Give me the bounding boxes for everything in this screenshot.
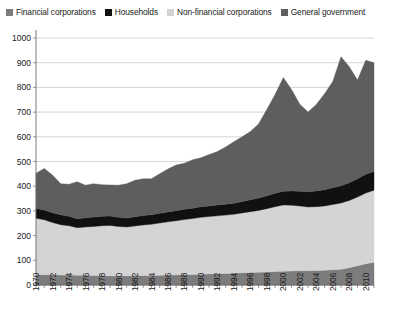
y-axis-tick-label: 1000 xyxy=(12,33,31,43)
y-axis-tick-label: 300 xyxy=(17,206,32,216)
y-axis-tick-label: 100 xyxy=(17,255,32,265)
y-axis-tick-label: 0 xyxy=(26,280,31,290)
legend-item-households[interactable]: Households xyxy=(105,8,158,17)
legend-label: Financial corporations xyxy=(16,8,96,17)
stacked-area-chart: Financial corporations Households Non-fi… xyxy=(0,0,400,331)
x-axis-tick-label: 1996 xyxy=(246,272,255,291)
y-axis-tick-label: 600 xyxy=(17,132,32,142)
x-axis-tick-label: 1974 xyxy=(65,272,74,291)
legend-item-non-financial-corporations[interactable]: Non-financial corporations xyxy=(167,8,272,17)
x-axis-tick-label: 2000 xyxy=(279,272,288,291)
y-axis-tick-label: 700 xyxy=(17,107,32,117)
square-swatch-icon xyxy=(6,9,13,16)
legend-item-financial-corporations[interactable]: Financial corporations xyxy=(6,8,96,17)
x-axis-tick-label: 1972 xyxy=(49,272,58,291)
x-axis-tick-label: 1992 xyxy=(213,272,222,291)
x-axis-tick-label: 1994 xyxy=(230,272,239,291)
legend-label: Non-financial corporations xyxy=(177,8,272,17)
legend-label: General government xyxy=(291,8,366,17)
x-axis-tick-label: 2010 xyxy=(362,272,371,291)
x-axis-tick-label: 1990 xyxy=(197,272,206,291)
area-series-layer xyxy=(36,57,374,285)
x-axis-tick-label: 1980 xyxy=(115,272,124,291)
plot-svg: 10009008007006005004003002001000 1970197… xyxy=(0,22,400,331)
x-axis-tick-label: 1970 xyxy=(32,272,41,291)
square-swatch-icon xyxy=(105,9,112,16)
x-axis-tick-label: 1986 xyxy=(164,272,173,291)
x-axis-tick-label: 1984 xyxy=(148,272,157,291)
x-axis-tick-label: 1978 xyxy=(98,272,107,291)
legend-item-general-government[interactable]: General government xyxy=(281,8,366,17)
y-axis-tick-label: 200 xyxy=(17,231,32,241)
y-axis-tick-labels: 10009008007006005004003002001000 xyxy=(12,33,36,290)
chart-legend: Financial corporations Households Non-fi… xyxy=(0,4,400,20)
x-axis-tick-label: 2008 xyxy=(345,272,354,291)
x-axis-tick-label: 2004 xyxy=(312,272,321,291)
y-axis-tick-label: 500 xyxy=(17,157,32,167)
x-axis-tick-label: 1988 xyxy=(180,272,189,291)
x-axis-tick-label: 2006 xyxy=(329,272,338,291)
x-axis-tick-label: 2002 xyxy=(296,272,305,291)
y-axis-tick-label: 400 xyxy=(17,181,32,191)
x-axis-tick-label: 1982 xyxy=(131,272,140,291)
legend-label: Households xyxy=(115,8,158,17)
plot-area: 10009008007006005004003002001000 1970197… xyxy=(0,22,400,331)
y-axis-tick-label: 800 xyxy=(17,82,32,92)
square-swatch-icon xyxy=(167,9,174,16)
x-axis-tick-label: 1998 xyxy=(263,272,272,291)
y-axis-tick-label: 900 xyxy=(17,58,32,68)
x-axis-tick-label: 1976 xyxy=(82,272,91,291)
square-swatch-icon xyxy=(281,9,288,16)
